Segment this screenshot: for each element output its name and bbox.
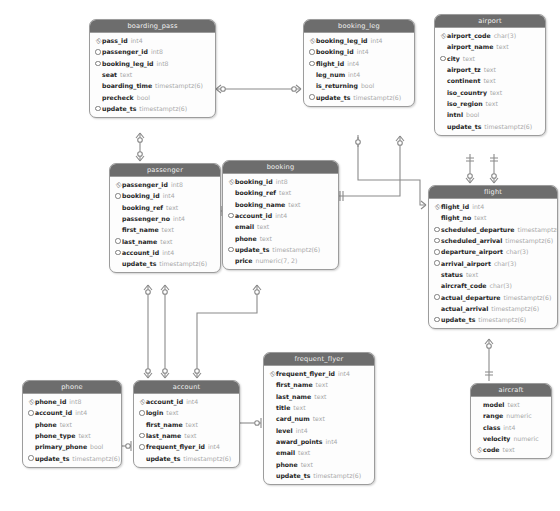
column-row[interactable]: velocitynumeric [471, 433, 551, 444]
table-boarding_pass[interactable]: boarding_pass ⚿pass_idint4 passenger_idi… [89, 19, 216, 118]
column-row[interactable]: scheduled_arrivaltimestamptz(6) [429, 235, 557, 246]
column-row[interactable]: rangenumeric [471, 410, 551, 421]
connector-passenger-account[interactable] [144, 285, 152, 378]
column-row[interactable]: titletext [264, 402, 374, 413]
column-row[interactable]: last_nametext [110, 235, 220, 246]
column-row[interactable]: account_idint4 [110, 247, 220, 258]
table-frequent_flyer[interactable]: frequent_flyer ⚿frequent_flyer_idint4 fi… [263, 352, 375, 485]
column-row[interactable]: aircraft_codechar(3) [429, 280, 557, 291]
table-airport[interactable]: airport ⚿airport_codechar(3) airport_nam… [434, 14, 546, 136]
column-row[interactable]: emailtext [223, 221, 338, 232]
connector-boarding-pass-passenger[interactable] [136, 133, 144, 161]
column-row[interactable]: booking_leg_idint8 [90, 58, 215, 69]
column-row[interactable]: first_nametext [110, 224, 220, 235]
column-row[interactable]: citytext [435, 53, 545, 64]
column-row[interactable]: last_nametext [134, 430, 239, 441]
column-row[interactable]: ⚿pass_idint4 [90, 35, 215, 46]
column-row[interactable]: first_nametext [134, 419, 239, 430]
column-type: int8 [157, 60, 169, 67]
column-row[interactable]: pricenumeric(7, 2) [223, 255, 338, 266]
column-row[interactable]: account_idint4 [223, 210, 338, 221]
column-row[interactable]: update_tstimestamptz(6) [134, 452, 239, 463]
connector-flight-aircraft[interactable] [485, 339, 493, 381]
table-passenger[interactable]: passenger ⚿passenger_idint8 booking_idin… [109, 163, 221, 273]
table-booking_leg[interactable]: booking_leg ⚿booking_leg_idint4 booking_… [303, 19, 415, 107]
column-row[interactable]: actual_arrivaltimestamptz(6) [429, 303, 557, 314]
column-row[interactable]: booking_idint4 [304, 46, 414, 57]
column-row[interactable]: continenttext [435, 75, 545, 86]
connector-booking-booking-leg[interactable] [339, 136, 404, 201]
column-row[interactable]: emailtext [264, 447, 374, 458]
column-row[interactable]: modeltext [471, 399, 551, 410]
column-row[interactable]: logintext [134, 407, 239, 418]
connector-airport-flight-arrival[interactable] [490, 154, 498, 183]
column-name: phone [276, 461, 298, 468]
column-row[interactable]: departure_airportchar(3) [429, 246, 557, 257]
connector-booking-leg-flight[interactable] [356, 135, 426, 209]
column-row[interactable]: airport_nametext [435, 41, 545, 52]
column-row[interactable]: last_nametext [264, 391, 374, 402]
column-row[interactable]: account_idint4 [23, 407, 121, 418]
column-row[interactable]: phonetext [23, 419, 121, 430]
column-row[interactable]: iso_regiontext [435, 98, 545, 109]
column-row[interactable]: phone_typetext [23, 430, 121, 441]
column-row[interactable]: ⚿booking_idint8 [223, 176, 338, 187]
column-row[interactable]: update_tstimestamptz(6) [90, 103, 215, 114]
column-row[interactable]: intnlbool [435, 109, 545, 120]
column-row[interactable]: precheckbool [90, 91, 215, 102]
column-row[interactable]: booking_reftext [223, 187, 338, 198]
table-flight[interactable]: flight ⚿flight_idint4 flight_notext sche… [428, 185, 558, 329]
column-row[interactable]: passenger_idint8 [90, 46, 215, 57]
column-row[interactable]: leg_numint4 [304, 69, 414, 80]
table-aircraft[interactable]: aircraft modeltext rangenumeric classint… [470, 383, 552, 459]
column-row[interactable]: phonetext [264, 458, 374, 469]
column-row[interactable]: ⚿codetext [471, 444, 551, 455]
column-row[interactable]: ⚿phone_idint8 [23, 396, 121, 407]
column-row[interactable]: airport_tztext [435, 64, 545, 75]
column-row[interactable]: frequent_flyer_idint4 [134, 441, 239, 452]
connector-booking-account[interactable] [193, 285, 261, 378]
column-row[interactable]: is_returningbool [304, 80, 414, 91]
column-row[interactable]: ⚿frequent_flyer_idint4 [264, 368, 374, 379]
column-row[interactable]: ⚿airport_codechar(3) [435, 30, 545, 41]
column-row[interactable]: ⚿flight_idint4 [429, 201, 557, 212]
column-row[interactable]: booking_nametext [223, 199, 338, 210]
table-account[interactable]: account ⚿account_idint4 logintext first_… [133, 380, 240, 468]
column-name: leg_num [316, 71, 345, 78]
column-row[interactable]: ⚿booking_leg_idint4 [304, 35, 414, 46]
column-type: timestamptz(6) [484, 123, 532, 130]
column-row[interactable]: update_tstimestamptz(6) [110, 258, 220, 269]
connector-airport-flight-departure[interactable] [466, 154, 474, 183]
column-row[interactable]: first_nametext [264, 379, 374, 390]
column-row[interactable]: update_tstimestamptz(6) [435, 120, 545, 131]
column-row[interactable]: scheduled_departuretimestamptz(6) [429, 224, 557, 235]
column-row[interactable]: update_tstimestamptz(6) [223, 244, 338, 255]
column-row[interactable]: arrival_airportchar(3) [429, 257, 557, 268]
column-row[interactable]: award_pointsint4 [264, 436, 374, 447]
column-row[interactable]: update_tstimestamptz(6) [264, 470, 374, 481]
connector-boarding-pass-booking-leg[interactable] [216, 85, 301, 93]
column-row[interactable]: primary_phonebool [23, 441, 121, 452]
column-row[interactable]: booking_reftext [110, 202, 220, 213]
column-row[interactable]: levelint4 [264, 424, 374, 435]
column-row[interactable]: seattext [90, 69, 215, 80]
column-row[interactable]: ⚿passenger_idint8 [110, 179, 220, 190]
column-row[interactable]: actual_departuretimestamptz(6) [429, 291, 557, 302]
column-row[interactable]: classint4 [471, 422, 551, 433]
connector-passenger-account-2[interactable] [161, 285, 169, 378]
column-row[interactable]: flight_idint4 [304, 58, 414, 69]
table-booking[interactable]: booking ⚿booking_idint8 booking_reftext … [222, 160, 339, 270]
column-row[interactable]: boarding_timetimestamptz(6) [90, 80, 215, 91]
table-phone[interactable]: phone ⚿phone_idint8 account_idint4 phone… [22, 380, 122, 468]
column-row[interactable]: statustext [429, 269, 557, 280]
column-row[interactable]: iso_countrytext [435, 86, 545, 97]
column-row[interactable]: phonetext [223, 232, 338, 243]
column-row[interactable]: booking_idint4 [110, 190, 220, 201]
column-row[interactable]: ⚿account_idint4 [134, 396, 239, 407]
column-row[interactable]: passenger_noint4 [110, 213, 220, 224]
column-row[interactable]: update_tstimestamptz(6) [23, 452, 121, 463]
column-row[interactable]: card_numtext [264, 413, 374, 424]
column-row[interactable]: flight_notext [429, 212, 557, 223]
column-row[interactable]: update_tstimestamptz(6) [304, 91, 414, 102]
column-row[interactable]: update_tstimestamptz(6) [429, 314, 557, 325]
